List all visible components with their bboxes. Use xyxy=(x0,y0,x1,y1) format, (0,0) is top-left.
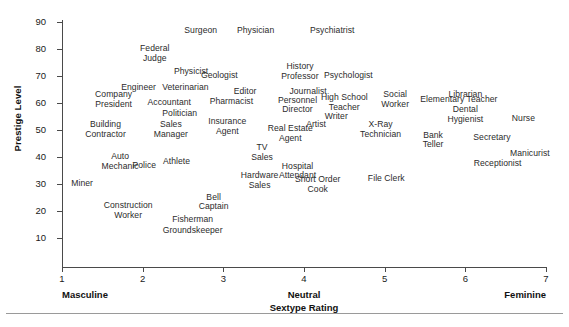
data-point-label: Fisherman xyxy=(172,216,213,226)
data-point-label: Athlete xyxy=(163,158,190,168)
x-axis-anchor-feminine: Feminine xyxy=(504,290,546,301)
data-point-label: Bell Captain xyxy=(199,193,229,212)
y-tick-label: 70 xyxy=(0,71,46,81)
data-point-label: Psychologist xyxy=(324,71,373,81)
data-point-label: Veterinarian xyxy=(162,83,208,93)
data-point-label: Police xyxy=(132,162,156,172)
x-axis-anchor-masculine: Masculine xyxy=(62,290,108,301)
y-tick-mark xyxy=(57,49,62,50)
data-point-label: Company President xyxy=(95,91,132,110)
x-axis-title: Sextype Rating xyxy=(224,302,384,313)
y-tick-label: 40 xyxy=(0,152,46,162)
data-point-label: Sales Manager xyxy=(154,120,188,139)
bottom-divider-rule xyxy=(6,313,563,314)
y-tick-mark xyxy=(57,238,62,239)
data-point-label: Personnel Director xyxy=(278,96,317,115)
y-tick-label: 80 xyxy=(0,44,46,54)
data-point-label: Politician xyxy=(162,109,197,119)
y-tick-mark xyxy=(57,103,62,104)
x-tick-label: 5 xyxy=(365,274,405,284)
data-point-label: Nurse xyxy=(512,114,535,124)
data-point-label: Hardware Sales xyxy=(241,172,279,191)
x-tick-label: 6 xyxy=(445,274,485,284)
y-tick-label: 60 xyxy=(0,98,46,108)
x-tick-mark xyxy=(304,267,305,272)
y-tick-label: 90 xyxy=(0,17,46,27)
y-tick-label: 10 xyxy=(0,233,46,243)
y-axis-line xyxy=(62,20,63,268)
data-point-label: Surgeon xyxy=(184,27,217,37)
data-point-label: History Professor xyxy=(281,62,318,81)
data-point-label: Receptionist xyxy=(474,159,522,169)
y-tick-mark xyxy=(57,76,62,77)
x-tick-label: 1 xyxy=(42,274,82,284)
y-tick-mark xyxy=(57,157,62,158)
data-point-label: File Clerk xyxy=(368,174,405,184)
y-tick-mark xyxy=(57,22,62,23)
data-point-label: Geologist xyxy=(201,71,238,81)
data-point-label: Secretary xyxy=(473,133,510,143)
x-tick-mark xyxy=(223,267,224,272)
data-point-label: Groundskeeper xyxy=(163,226,223,236)
y-tick-label: 30 xyxy=(0,179,46,189)
data-point-label: Short Order Cook xyxy=(295,176,340,195)
scatter-plot-figure: 102030405060708090 1234567 Prestige Leve… xyxy=(0,0,569,327)
data-point-label: TV Sales xyxy=(251,143,273,162)
y-tick-label: 50 xyxy=(0,125,46,135)
x-axis-anchor-neutral: Neutral xyxy=(244,290,364,301)
x-tick-mark xyxy=(143,267,144,272)
data-point-label: Accountant xyxy=(148,98,192,108)
x-tick-label: 3 xyxy=(203,274,243,284)
data-point-label: Dental Hygienist xyxy=(447,106,483,125)
x-tick-mark xyxy=(62,267,63,272)
data-point-label: Psychiatrist xyxy=(310,27,355,37)
x-tick-label: 2 xyxy=(123,274,163,284)
data-point-label: Physician xyxy=(237,27,274,37)
data-point-label: Writer xyxy=(325,112,348,122)
data-point-label: High School Teacher xyxy=(321,93,368,112)
y-axis-title: Prestige Level xyxy=(12,59,23,179)
x-tick-label: 4 xyxy=(284,274,324,284)
data-point-label: X-Ray Technician xyxy=(360,120,401,139)
x-tick-label: 7 xyxy=(526,274,566,284)
data-point-label: Construction Worker xyxy=(104,201,153,220)
data-point-label: Federal Judge xyxy=(140,45,170,64)
y-tick-mark xyxy=(57,211,62,212)
data-point-label: Miner xyxy=(71,179,93,189)
y-tick-mark xyxy=(57,130,62,131)
data-point-label: Pharmacist xyxy=(210,97,253,107)
data-point-label: Building Contractor xyxy=(85,120,126,139)
x-tick-mark xyxy=(546,267,547,272)
x-tick-mark xyxy=(465,267,466,272)
x-tick-mark xyxy=(385,267,386,272)
y-tick-label: 20 xyxy=(0,206,46,216)
data-point-label: Real Estate Agent xyxy=(268,124,313,143)
data-point-label: Bank Teller xyxy=(423,131,444,150)
y-tick-mark xyxy=(57,184,62,185)
data-point-label: Insurance Agent xyxy=(208,118,246,137)
data-point-label: Social Worker xyxy=(381,91,409,110)
